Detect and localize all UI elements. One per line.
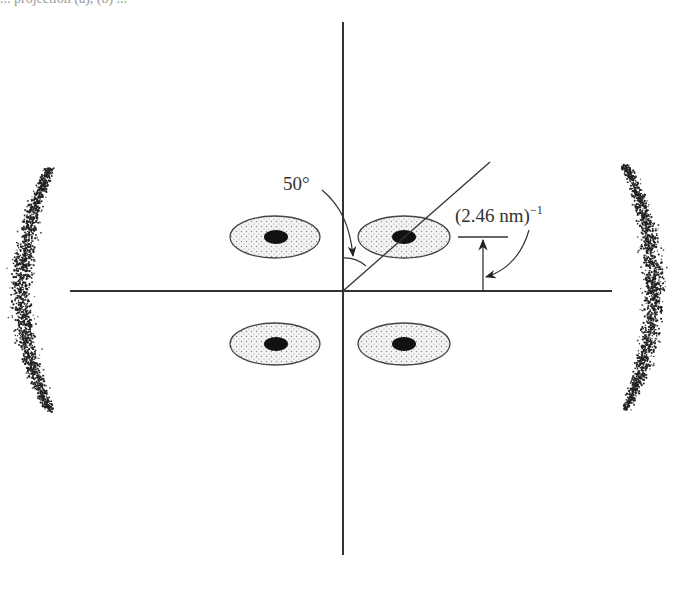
angle-leader-arrow bbox=[322, 190, 353, 256]
reflection-upper-left bbox=[230, 216, 320, 258]
spacing-label: (2.46 nm)−1 bbox=[455, 203, 543, 227]
angle-arc bbox=[343, 258, 366, 266]
right-equatorial-arc bbox=[621, 164, 668, 411]
reflection-lower-left bbox=[230, 323, 320, 365]
spacing-label-base: (2.46 nm) bbox=[455, 205, 530, 227]
left-equatorial-arc bbox=[6, 167, 54, 413]
diffraction-diagram: 50° (2.46 nm)−1 bbox=[0, 0, 688, 589]
angle-label: 50° bbox=[283, 173, 310, 194]
spacing-label-exponent: −1 bbox=[530, 203, 543, 217]
reflection-lower-right bbox=[358, 323, 450, 365]
